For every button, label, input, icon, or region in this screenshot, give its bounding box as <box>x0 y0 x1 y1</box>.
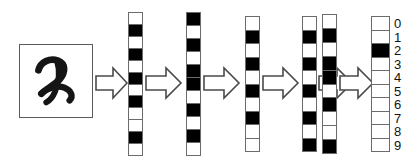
feature-vector-2-cell-1 <box>187 26 200 39</box>
feature-vector-4 <box>302 16 317 152</box>
feature-vector-1-cell-3 <box>129 49 142 61</box>
class-label-2: 2 <box>394 44 401 57</box>
diagram-canvas: 0123456789 <box>0 0 416 166</box>
feature-vector-3-cell-1 <box>246 31 259 45</box>
feature-vector-1 <box>128 12 143 156</box>
feature-vector-5-cell-9 <box>323 140 336 153</box>
feature-vector-2-cell-3 <box>187 52 200 65</box>
arrow-layer-3-to-layer-4 <box>263 66 299 100</box>
class-probability-vector-cell-7: 7 <box>372 112 389 126</box>
feature-vector-2-cell-5 <box>187 78 200 91</box>
feature-vector-5-cell-1 <box>323 29 336 43</box>
arrow-layer-2-to-layer-3 <box>204 66 240 100</box>
feature-vector-3-cell-6 <box>246 98 259 112</box>
feature-vector-3-cell-8 <box>246 125 259 139</box>
class-probability-vector-cell-8: 8 <box>372 125 389 139</box>
class-probability-vector-cell-0: 0 <box>372 17 389 31</box>
class-probability-vector-cell-5: 5 <box>372 85 389 99</box>
feature-vector-4-cell-9 <box>303 139 316 152</box>
class-label-8: 8 <box>394 125 401 138</box>
class-label-4: 4 <box>394 71 401 84</box>
feature-vector-1-cell-4 <box>129 61 142 73</box>
feature-vector-2-cell-0 <box>187 13 200 26</box>
arrow-layer-5-to-output <box>340 66 374 100</box>
feature-vector-1-cell-8 <box>129 108 142 120</box>
feature-vector-1-cell-9 <box>129 120 142 132</box>
feature-vector-4-cell-3 <box>303 58 316 72</box>
class-probability-vector-cell-9: 9 <box>372 139 389 152</box>
feature-vector-4-cell-6 <box>303 98 316 112</box>
feature-vector-5-cell-3 <box>323 57 336 71</box>
class-label-6: 6 <box>394 98 401 111</box>
feature-vector-2-cell-8 <box>187 117 200 130</box>
feature-vector-2 <box>186 12 201 156</box>
feature-vector-1-cell-10 <box>129 132 142 144</box>
feature-vector-5-cell-5 <box>323 85 336 99</box>
class-label-9: 9 <box>394 138 401 151</box>
arrow-layer-1-to-layer-2 <box>146 66 182 100</box>
feature-vector-5-cell-6 <box>323 98 336 112</box>
feature-vector-5-cell-7 <box>323 112 336 126</box>
class-probability-vector-cell-4: 4 <box>372 71 389 85</box>
feature-vector-4-cell-2 <box>303 44 316 58</box>
feature-vector-5-cell-8 <box>323 126 336 140</box>
class-probability-vector: 0123456789 <box>371 16 390 152</box>
feature-vector-5-cell-0 <box>323 15 336 29</box>
feature-vector-3-cell-4 <box>246 71 259 85</box>
feature-vector-5-cell-2 <box>323 43 336 57</box>
feature-vector-2-cell-4 <box>187 65 200 78</box>
feature-vector-3-cell-0 <box>246 17 259 31</box>
feature-vector-2-cell-2 <box>187 39 200 52</box>
feature-vector-3-cell-3 <box>246 58 259 72</box>
feature-vector-3 <box>245 16 260 152</box>
class-label-0: 0 <box>394 17 401 30</box>
class-probability-vector-cell-6: 6 <box>372 98 389 112</box>
class-probability-vector-cell-2: 2 <box>372 44 389 58</box>
feature-vector-1-cell-6 <box>129 85 142 97</box>
class-probability-vector-cell-3: 3 <box>372 58 389 72</box>
input-digit-box <box>19 44 93 118</box>
feature-vector-1-cell-0 <box>129 13 142 25</box>
class-label-7: 7 <box>394 111 401 124</box>
class-label-5: 5 <box>394 84 401 97</box>
handwritten-digit-2-icon <box>20 45 92 117</box>
feature-vector-1-cell-5 <box>129 73 142 85</box>
feature-vector-2-cell-7 <box>187 104 200 117</box>
feature-vector-4-cell-5 <box>303 85 316 99</box>
feature-vector-2-cell-10 <box>187 143 200 155</box>
feature-vector-5-cell-4 <box>323 71 336 85</box>
feature-vector-5 <box>322 14 337 154</box>
feature-vector-2-cell-6 <box>187 91 200 104</box>
feature-vector-4-cell-7 <box>303 112 316 126</box>
feature-vector-4-cell-4 <box>303 71 316 85</box>
arrow-input-to-layer-1 <box>96 66 128 100</box>
feature-vector-1-cell-7 <box>129 96 142 108</box>
class-label-1: 1 <box>394 30 401 43</box>
class-label-3: 3 <box>394 57 401 70</box>
class-probability-vector-cell-1: 1 <box>372 31 389 45</box>
feature-vector-4-cell-1 <box>303 31 316 45</box>
feature-vector-3-cell-5 <box>246 85 259 99</box>
feature-vector-1-cell-11 <box>129 144 142 155</box>
feature-vector-1-cell-1 <box>129 25 142 37</box>
feature-vector-1-cell-2 <box>129 37 142 49</box>
feature-vector-4-cell-8 <box>303 125 316 139</box>
feature-vector-3-cell-2 <box>246 44 259 58</box>
feature-vector-4-cell-0 <box>303 17 316 31</box>
feature-vector-3-cell-9 <box>246 139 259 152</box>
feature-vector-3-cell-7 <box>246 112 259 126</box>
feature-vector-2-cell-9 <box>187 130 200 143</box>
